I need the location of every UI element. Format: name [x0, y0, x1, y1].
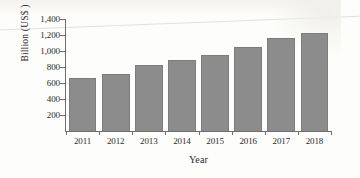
x-axis-tick-mark	[165, 131, 166, 135]
bar-slot	[298, 19, 331, 131]
x-axis-tick-mark	[232, 131, 233, 135]
bar-2016[interactable]	[234, 47, 262, 131]
x-axis-tick-label: 2017	[265, 136, 298, 148]
bar-slot	[265, 19, 298, 131]
y-axis-tick-label: 1,200	[24, 31, 60, 40]
bar-2017[interactable]	[267, 38, 295, 131]
x-axis-tick-mark	[99, 131, 100, 135]
x-axis-tick-mark	[265, 131, 266, 135]
x-axis-tick-mark	[331, 131, 332, 135]
bar-slot	[132, 19, 165, 131]
bar-2011[interactable]	[69, 78, 97, 131]
y-axis-tick-label: 800	[24, 63, 60, 72]
x-axis-title: Year	[66, 154, 331, 165]
bar-2018[interactable]	[301, 33, 329, 131]
bar-2013[interactable]	[135, 65, 163, 131]
bar-2015[interactable]	[201, 55, 229, 131]
bar-2014[interactable]	[168, 60, 196, 131]
x-axis-tick-label: 2014	[165, 136, 198, 148]
x-axis-tick-label: 2016	[232, 136, 265, 148]
y-axis-tick-label: 200	[24, 111, 60, 120]
x-axis-tick-mark	[199, 131, 200, 135]
x-axis-tick-label: 2011	[66, 136, 99, 148]
plot-area	[66, 19, 331, 131]
x-axis-tick-label: 2015	[199, 136, 232, 148]
y-axis-tick-label: 400	[24, 95, 60, 104]
x-axis-tick-labels: 20112012201320142015201620172018	[66, 136, 331, 148]
bar-slot	[99, 19, 132, 131]
y-axis-tick-label: 1,400	[24, 15, 60, 24]
y-axis-tick-label: 600	[24, 79, 60, 88]
x-axis-tick-label: 2013	[132, 136, 165, 148]
y-axis-tick-label: 1,000	[24, 47, 60, 56]
y-axis-tick-labels: 1,4001,2001,000800600400200	[22, 0, 60, 178]
x-axis-tick-label: 2012	[99, 136, 132, 148]
x-axis-tick-mark	[66, 131, 67, 135]
bar-slot	[165, 19, 198, 131]
bar-2012[interactable]	[102, 74, 130, 131]
x-axis-tick-label: 2018	[298, 136, 331, 148]
bar-series	[66, 19, 331, 131]
bar-slot	[199, 19, 232, 131]
bar-slot	[66, 19, 99, 131]
x-axis-tick-mark	[132, 131, 133, 135]
bar-slot	[232, 19, 265, 131]
x-axis-tick-marks	[66, 131, 331, 135]
x-axis-tick-mark	[298, 131, 299, 135]
